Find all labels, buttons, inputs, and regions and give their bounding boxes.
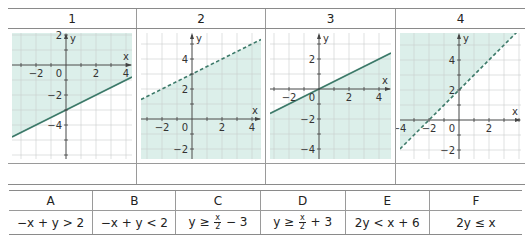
ineq-e: 2y < x + 6 bbox=[345, 211, 429, 235]
ineq-c: y ≥ x2 − 3 bbox=[176, 211, 260, 235]
ineq-header-f: F bbox=[429, 191, 522, 211]
x-tick-label: 2 bbox=[346, 92, 352, 103]
x-tick-label: 2 bbox=[219, 122, 225, 133]
graph-1-plot: −20242−2−4xy bbox=[8, 29, 136, 163]
graph-3-plot: −20242−2−4xy bbox=[266, 29, 395, 163]
x-tick-label: 4 bbox=[123, 68, 129, 79]
ineq-d-lhs: y ≥ bbox=[273, 215, 298, 229]
fraction-denominator: 2 bbox=[214, 223, 221, 231]
graph-2-plot: −202442−2xy bbox=[137, 29, 265, 163]
graphs-row: −20242−2−4xy −202442−2xy −20242−2−4xy −4… bbox=[8, 29, 525, 164]
y-axis-label: y bbox=[196, 33, 202, 44]
graph-header-1: 1 bbox=[8, 9, 137, 29]
y-tick-label: −2 bbox=[440, 145, 455, 156]
fraction: x2 bbox=[299, 214, 306, 231]
y-tick-label: −4 bbox=[47, 120, 62, 131]
x-tick-label: 4 bbox=[249, 122, 255, 133]
y-axis-label: y bbox=[323, 33, 329, 44]
graph-cell-3: −20242−2−4xy bbox=[266, 29, 396, 164]
inequalities-table: A B C D E F −x + y > 2 −x + y < 2 y ≥ x2… bbox=[9, 190, 522, 235]
ineq-a: −x + y > 2 bbox=[9, 211, 93, 235]
y-tick-label: 2 bbox=[182, 84, 188, 95]
x-tick-label: 0 bbox=[449, 123, 455, 134]
answer-cell-2[interactable] bbox=[137, 164, 266, 185]
ineq-d: y ≥ x2 + 3 bbox=[260, 211, 345, 235]
answers-row bbox=[8, 164, 525, 185]
x-axis-label: x bbox=[512, 106, 518, 117]
graph-header-2: 2 bbox=[137, 9, 266, 29]
ineq-header-d: D bbox=[260, 191, 345, 211]
ineq-header-b: B bbox=[93, 191, 176, 211]
ineq-f: 2y ≤ x bbox=[429, 211, 522, 235]
graph-cell-2: −202442−2xy bbox=[137, 29, 266, 164]
x-tick-label: −2 bbox=[282, 92, 297, 103]
x-tick-label: 4 bbox=[376, 92, 382, 103]
x-tick-label: 0 bbox=[309, 92, 315, 103]
ineq-d-rhs: + 3 bbox=[307, 215, 332, 229]
answer-cell-4[interactable] bbox=[396, 164, 526, 185]
y-tick-label: 2 bbox=[309, 54, 315, 65]
y-axis-label: y bbox=[463, 33, 469, 44]
x-axis-label: x bbox=[123, 51, 129, 62]
x-tick-label: 0 bbox=[182, 122, 188, 133]
y-tick-label: 4 bbox=[449, 55, 455, 66]
x-tick-label: −2 bbox=[155, 122, 170, 133]
ineq-b: −x + y < 2 bbox=[93, 211, 176, 235]
x-tick-label: 2 bbox=[93, 68, 99, 79]
y-axis-label: y bbox=[70, 33, 76, 44]
x-tick-label: 2 bbox=[486, 123, 492, 134]
ineq-header-c: C bbox=[176, 191, 260, 211]
y-tick-label: −2 bbox=[47, 90, 62, 101]
ineq-header-e: E bbox=[345, 191, 429, 211]
x-tick-label: −2 bbox=[29, 68, 44, 79]
shaded-region bbox=[270, 53, 391, 163]
y-tick-label: −2 bbox=[300, 114, 315, 125]
y-tick-label: −2 bbox=[173, 144, 188, 155]
fraction: x2 bbox=[214, 214, 221, 231]
x-tick-label: −4 bbox=[396, 123, 406, 134]
y-arrow-icon bbox=[190, 33, 194, 39]
answer-cell-3[interactable] bbox=[266, 164, 396, 185]
x-tick-label: −2 bbox=[422, 123, 437, 134]
fraction-denominator: 2 bbox=[299, 223, 306, 231]
y-tick-label: 2 bbox=[56, 30, 62, 41]
y-tick-label: −4 bbox=[300, 144, 315, 155]
y-arrow-icon bbox=[317, 33, 321, 39]
y-tick-label: 2 bbox=[449, 85, 455, 96]
graph-cell-1: −20242−2−4xy bbox=[8, 29, 137, 164]
ineq-c-lhs: y ≥ bbox=[189, 215, 214, 229]
graph-cell-4: −4−20242−2xy bbox=[396, 29, 526, 164]
ineq-header-a: A bbox=[9, 191, 93, 211]
x-arrow-icon bbox=[515, 118, 521, 122]
shaded-region bbox=[12, 29, 132, 137]
inequalities-body-row: −x + y > 2 −x + y < 2 y ≥ x2 − 3 y ≥ x2 … bbox=[9, 211, 522, 235]
ineq-c-rhs: − 3 bbox=[222, 215, 247, 229]
shaded-region bbox=[141, 40, 261, 164]
graph-4-plot: −4−20242−2xy bbox=[396, 29, 525, 163]
graph-header-3: 3 bbox=[266, 9, 396, 29]
y-tick-label: 4 bbox=[182, 54, 188, 65]
graph-header-4: 4 bbox=[396, 9, 526, 29]
answer-cell-1[interactable] bbox=[8, 164, 137, 185]
graphs-table: 1 2 3 4 −20242−2−4xy −202442−2xy −20242−… bbox=[8, 8, 525, 185]
x-axis-label: x bbox=[382, 75, 388, 86]
inequalities-header-row: A B C D E F bbox=[9, 191, 522, 211]
graphs-header-row: 1 2 3 4 bbox=[8, 9, 525, 29]
x-axis-label: x bbox=[252, 105, 258, 116]
x-tick-label: 0 bbox=[56, 68, 62, 79]
